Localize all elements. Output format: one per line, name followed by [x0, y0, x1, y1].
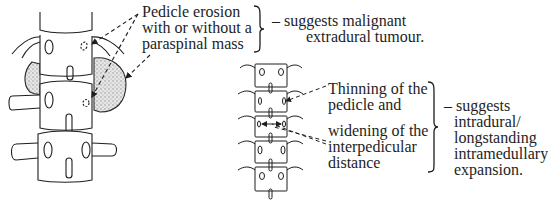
interpretation-extradural-line2: extradural tumour.: [306, 29, 424, 45]
finding-interpedicular-widening-line1: widening of the: [328, 123, 428, 139]
finding-pedicle-thinning-line2: pedicle and: [328, 97, 401, 113]
finding-pedicle-thinning-line1: Thinning of the: [328, 81, 428, 97]
interpretation-intradural-line3: longstanding: [454, 130, 537, 146]
interpretation-intradural-line4: intramedullary: [454, 146, 548, 162]
interpretation-intradural-line1: – suggests: [444, 98, 510, 114]
lumbar-vertebrae-illustration: [9, 12, 150, 182]
finding-pedicle-erosion-line3: paraspinal mass: [142, 36, 244, 52]
interpretation-extradural-line1: – suggests malignant: [272, 13, 406, 29]
brace-extradural: [254, 6, 264, 52]
brace-intradural: [428, 82, 438, 172]
vertebral-column-illustration: [238, 64, 326, 199]
finding-pedicle-erosion-line1: Pedicle erosion: [142, 4, 240, 20]
finding-interpedicular-widening-line2: interpedicular: [328, 139, 417, 155]
interpretation-intradural-line2: intradural/: [454, 114, 521, 130]
finding-pedicle-erosion-line2: with or without a: [142, 20, 252, 36]
paraspinal-mass-shape: [25, 62, 40, 94]
interpretation-intradural-line5: expansion.: [454, 162, 523, 178]
finding-interpedicular-widening-line3: distance: [328, 155, 380, 171]
